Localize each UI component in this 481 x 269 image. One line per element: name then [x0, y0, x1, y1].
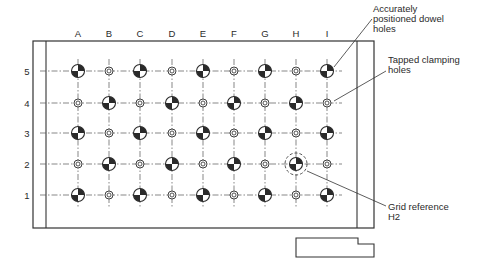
tapped-hole-icon [74, 99, 82, 107]
column-label: H [293, 28, 300, 39]
dowel-hole-icon [103, 97, 116, 110]
dowel-hole-icon [290, 158, 303, 171]
row-label: 3 [24, 128, 29, 139]
tapped-hole-icon [292, 191, 300, 199]
dowel-hole-icon [259, 65, 272, 78]
dowel-hole-icon [259, 189, 272, 202]
dowel-hole-icon [321, 65, 334, 78]
tapped-hole-icon [199, 160, 207, 168]
dowel-hole-icon [197, 65, 210, 78]
tapped-hole-icon [168, 129, 176, 137]
side-profile-outline [296, 238, 374, 257]
row-label: 5 [24, 66, 29, 77]
tapped-hole-icon [168, 191, 176, 199]
dowel-hole-icon [197, 189, 210, 202]
row-label: 2 [24, 159, 29, 170]
annotation-text: H2 [388, 211, 400, 222]
column-label: A [75, 28, 82, 39]
dowel-hole-icon [134, 189, 147, 202]
dowel-hole-icon [72, 65, 85, 78]
column-label: G [261, 28, 268, 39]
dowel-hole-icon [321, 189, 334, 202]
column-label: C [137, 28, 144, 39]
column-label: F [231, 28, 237, 39]
dowel-hole-icon [103, 158, 116, 171]
tapped-hole-icon [261, 160, 269, 168]
column-labels: ABCDEFGHI [75, 28, 328, 39]
annotation-text: holes [373, 23, 396, 34]
tapped-hole-icon [105, 191, 113, 199]
dowel-hole-icon [290, 97, 303, 110]
tapped-hole-icon [168, 67, 176, 75]
dowel-hole-icon [228, 158, 241, 171]
tapped-hole-icon [136, 99, 144, 107]
row-labels: 54321 [24, 66, 29, 201]
tapped-hole-icon [105, 67, 113, 75]
dowel-hole-icon [134, 65, 147, 78]
dowel-hole-icon [321, 127, 334, 140]
dowel-hole-icon [197, 127, 210, 140]
leader-line [334, 71, 386, 101]
tapped-hole-icon [230, 191, 238, 199]
column-label: E [200, 28, 206, 39]
tapped-hole-icon [261, 99, 269, 107]
dowel-hole-icon [166, 158, 179, 171]
column-label: B [106, 28, 112, 39]
tapped-hole-icon [323, 160, 331, 168]
dowel-hole-icon [134, 127, 147, 140]
dowel-hole-icon [72, 127, 85, 140]
column-label: I [326, 28, 329, 39]
row-label: 1 [24, 190, 29, 201]
tapped-hole-icon [230, 129, 238, 137]
tapped-hole-icon [292, 129, 300, 137]
tapped-hole-icon [105, 129, 113, 137]
plate-side-profile [296, 238, 374, 257]
column-label: D [169, 28, 176, 39]
dowel-hole-icon [259, 127, 272, 140]
leader-line [334, 19, 372, 67]
tapped-hole-icon [292, 67, 300, 75]
dowel-hole-icon [72, 189, 85, 202]
annotation-tapped: Tapped clampingholes [334, 54, 460, 101]
dowel-hole-icon [166, 97, 179, 110]
tapped-hole-icon [136, 160, 144, 168]
tapped-hole-icon [74, 160, 82, 168]
dowel-hole-icon [228, 97, 241, 110]
holes [72, 65, 334, 202]
annotation-text: holes [388, 64, 411, 75]
jig-plate-diagram: ABCDEFGHI 54321 Accuratelypositioned dow… [0, 0, 481, 269]
tapped-hole-icon [323, 99, 331, 107]
tapped-hole-icon [230, 67, 238, 75]
row-label: 4 [24, 98, 29, 109]
tapped-hole-icon [199, 99, 207, 107]
